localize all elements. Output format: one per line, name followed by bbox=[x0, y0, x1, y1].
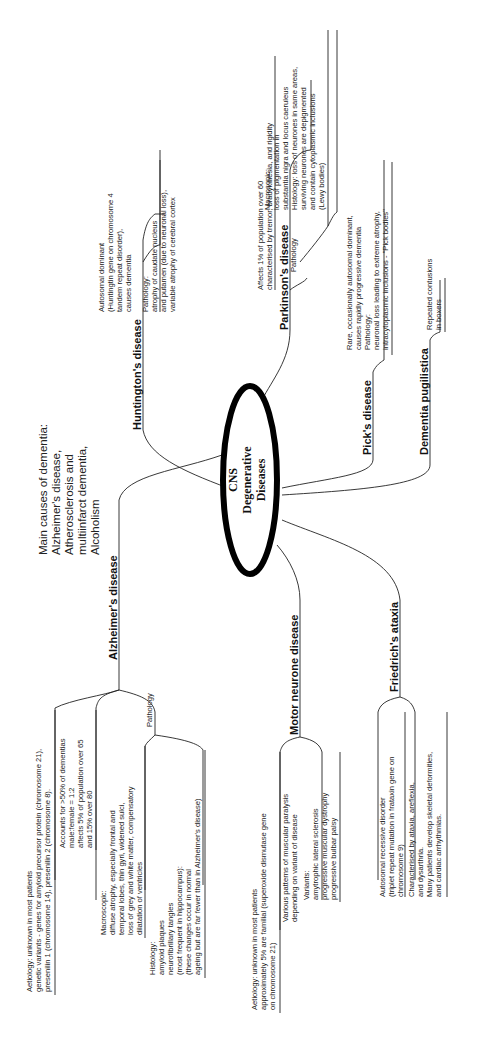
parkinson-pathology-link bbox=[290, 278, 307, 290]
svg-text:(triplet repeat mutation in fr: (triplet repeat mutation in frataxin gen… bbox=[387, 756, 396, 897]
svg-text:genetic variants - genes for a: genetic variants - genes for amyloid pre… bbox=[34, 749, 43, 992]
svg-text:atrophy of caudate nucleus: atrophy of caudate nucleus bbox=[150, 221, 159, 312]
svg-text:Atherosclerosis and: Atherosclerosis and bbox=[63, 454, 75, 555]
huntington-pathology: Pathology: atrophy of caudate nucleus an… bbox=[141, 190, 177, 312]
svg-text:substantia nigra and locus cae: substantia nigra and locus caeruleus bbox=[281, 87, 290, 210]
svg-text:loss of grey and white matter,: loss of grey and white matter, compensat… bbox=[126, 786, 135, 935]
friedrich-features: Characterised by ataxia, areflexia, and … bbox=[407, 752, 443, 897]
svg-text:amyloid plaques: amyloid plaques bbox=[157, 920, 166, 975]
svg-text:on chromosome 21): on chromosome 21) bbox=[268, 942, 277, 1010]
svg-text:variable atrophy of cerebral c: variable atrophy of cerebral cortex bbox=[168, 197, 177, 312]
svg-text:tandem repeat disorder),: tandem repeat disorder), bbox=[115, 229, 124, 312]
svg-text:and dysarthria.: and dysarthria. bbox=[416, 847, 425, 897]
svg-text:in boxers: in boxers bbox=[434, 299, 443, 330]
svg-text:Autosomal dominant: Autosomal dominant bbox=[97, 242, 106, 312]
svg-text:CNS: CNS bbox=[226, 468, 240, 492]
parkinson-pathology-label: Pathology bbox=[289, 238, 298, 272]
svg-text:Alzheimer's disease,: Alzheimer's disease, bbox=[50, 450, 62, 555]
huntington-title: Huntington's disease bbox=[131, 319, 143, 430]
svg-text:(Huntingtin gene on chromosome: (Huntingtin gene on chromosome 4 bbox=[106, 193, 115, 312]
alzheimer-pathology-label: Pathology bbox=[145, 693, 154, 727]
huntington-description: Autosomal dominant (Huntingtin gene on c… bbox=[97, 193, 133, 312]
mind-map-canvas: CNS Degenerative Diseases Main causes of… bbox=[0, 0, 481, 1057]
svg-text:(Lewy bodies): (Lewy bodies) bbox=[317, 162, 326, 210]
svg-text:Pathology:: Pathology: bbox=[363, 314, 372, 350]
svg-text:causes rapidly progressive dem: causes rapidly progressive dementia bbox=[354, 226, 363, 350]
svg-text:Aetiology: unknown in most pat: Aetiology: unknown in most patients bbox=[250, 889, 259, 1010]
svg-text:temporal lobes, thin gyri, wid: temporal lobes, thin gyri, widened sulci… bbox=[117, 802, 126, 935]
svg-text:Autosomal recessive disorder: Autosomal recessive disorder bbox=[378, 797, 387, 897]
svg-text:Main causes of dementia:: Main causes of dementia: bbox=[37, 424, 49, 555]
svg-text:affects 5% of population over: affects 5% of population over 65 bbox=[76, 740, 85, 848]
svg-text:and cardiac arrhythmias.: and cardiac arrhythmias. bbox=[434, 814, 443, 897]
picks-title: Pick's disease bbox=[361, 380, 373, 455]
alzheimer-title: Alzheimer's disease bbox=[107, 555, 119, 660]
svg-text:progressive muscular dystrophy: progressive muscular dystrophy bbox=[320, 793, 329, 900]
svg-text:male:female = 1:2: male:female = 1:2 bbox=[67, 787, 76, 848]
alzheimer-aetiology: Aetiology: unknown in most patients gene… bbox=[25, 749, 52, 992]
svg-text:Various patterns of muscular p: Various patterns of muscular paralysis bbox=[281, 794, 290, 922]
svg-text:Diseases: Diseases bbox=[254, 458, 268, 501]
svg-text:chromosome 9): chromosome 9) bbox=[396, 844, 405, 897]
friedrich-title: Friedrich's ataxia bbox=[388, 601, 400, 692]
motor-neurone-patterns: Various patterns of muscular paralysis d… bbox=[281, 794, 299, 922]
svg-text:Alcoholism: Alcoholism bbox=[89, 499, 101, 555]
svg-text:neuronal loss leading to extre: neuronal loss leading to extreme atrophy… bbox=[372, 211, 381, 350]
svg-text:Rare, occasionally autosomal d: Rare, occasionally autosomal dominant, bbox=[345, 215, 354, 350]
svg-text:Many patients develop skeletal: Many patients develop skeletal deformiti… bbox=[425, 752, 434, 897]
svg-text:Macroscopic:: Macroscopic: bbox=[99, 890, 108, 935]
svg-text:Variants:: Variants: bbox=[302, 871, 311, 900]
svg-text:Histology:: Histology: bbox=[148, 942, 157, 975]
alzheimer-histology: Histology: amyloid plaques neurofibrilla… bbox=[148, 798, 202, 975]
svg-text:intracytoplasmic inclusions -: intracytoplasmic inclusions - "Pick bodi… bbox=[381, 209, 390, 350]
svg-text:causes dementia: causes dementia bbox=[124, 254, 133, 312]
svg-text:Accounts for >50% of dementias: Accounts for >50% of dementias bbox=[58, 738, 67, 848]
svg-text:amytrophic lateral sclerosis: amytrophic lateral sclerosis bbox=[311, 808, 320, 900]
svg-text:diffuse atrophy, especially fr: diffuse atrophy, especially frontal and bbox=[108, 810, 117, 935]
svg-text:Repeated contusions: Repeated contusions bbox=[425, 258, 434, 330]
alzheimer-epidemiology: Accounts for >50% of dementias male:fema… bbox=[58, 738, 94, 848]
friedrich-genetics: Autosomal recessive disorder (triplet re… bbox=[378, 756, 405, 897]
svg-text:(most frequent in hippocampus): (most frequent in hippocampus): bbox=[175, 866, 184, 975]
svg-text:neurofibrillary tangles: neurofibrillary tangles bbox=[166, 903, 175, 975]
svg-text:presenilin 1 (chromosome 14),: presenilin 1 (chromosome 14), presenilin… bbox=[43, 789, 52, 992]
svg-text:Pathology:: Pathology: bbox=[141, 276, 150, 312]
parkinson-pathology: Macrosopic: loss of pigmentation in subs… bbox=[263, 67, 326, 210]
svg-text:dilatation of ventricles: dilatation of ventricles bbox=[135, 862, 144, 935]
motor-neurone-title: Motor neurone disease bbox=[288, 615, 300, 735]
pugilistica-title: Dementia pugilistica bbox=[418, 347, 430, 455]
svg-text:Aetiology: unknown in most pat: Aetiology: unknown in most patients bbox=[25, 871, 34, 992]
alzheimer-macroscopic: Macroscopic: diffuse atrophy, especially… bbox=[99, 786, 144, 935]
svg-text:and 15% over 80: and 15% over 80 bbox=[85, 791, 94, 848]
svg-text:Degenerative: Degenerative bbox=[240, 446, 254, 514]
main-causes-note: Main causes of dementia: Alzheimer's dis… bbox=[37, 424, 101, 555]
motor-neurone-variants: Variants: amytrophic lateral sclerosis p… bbox=[302, 793, 338, 900]
svg-text:Histology: loss of neurones in: Histology: loss of neurones in same area… bbox=[290, 67, 299, 210]
mind-map-diagram: CNS Degenerative Diseases Main causes of… bbox=[0, 0, 481, 1057]
svg-text:progressive bulbar palsy: progressive bulbar palsy bbox=[329, 817, 338, 900]
motor-neurone-aetiology: Aetiology: unknown in most patients appr… bbox=[250, 813, 277, 1010]
svg-text:(these changes occur in normal: (these changes occur in normal bbox=[184, 869, 193, 975]
svg-text:surviving neurones are depigme: surviving neurones are depigmented bbox=[299, 87, 308, 210]
svg-text:approximately 5% are familial: approximately 5% are familial (superoxid… bbox=[259, 813, 268, 1010]
picks-description: Rare, occasionally autosomal dominant, c… bbox=[345, 209, 390, 350]
svg-text:Macrosopic:: Macrosopic: bbox=[263, 169, 272, 210]
svg-text:and contain cytoplasmic inclus: and contain cytoplasmic inclusions bbox=[308, 93, 317, 210]
svg-text:depending on variant of diseas: depending on variant of disease bbox=[290, 814, 299, 922]
svg-text:loss of pigmentation in: loss of pigmentation in bbox=[272, 134, 281, 210]
svg-text:ageing but are far fewer than: ageing but are far fewer than in Alzheim… bbox=[193, 798, 202, 975]
svg-text:multiinfarct dementia,: multiinfarct dementia, bbox=[76, 446, 88, 555]
svg-text:Characterised by ataxia, arefl: Characterised by ataxia, areflexia, bbox=[407, 782, 416, 897]
